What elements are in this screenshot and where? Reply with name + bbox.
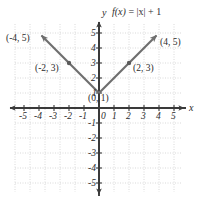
- y-tick-label: 2: [91, 74, 96, 84]
- x-tick-label: -2: [64, 112, 72, 122]
- x-tick-label: 2: [126, 112, 131, 122]
- x-tick-label-zero: 0: [101, 112, 106, 122]
- y-tick-label: -2: [88, 134, 96, 144]
- function-label-body: |x| + 1: [137, 6, 162, 17]
- x-tick-label: 4: [156, 112, 161, 122]
- graph-figure: f(x) = |x| + 1 x y -5 -4 -3 -2 -1 0 1 2 …: [0, 0, 205, 204]
- data-point-dot: [67, 61, 71, 65]
- data-point-dot: [127, 61, 131, 65]
- x-tick-label: -5: [19, 112, 27, 122]
- point-label-2-3: (2, 3): [133, 64, 154, 74]
- x-tick-label: 1: [112, 112, 117, 122]
- y-tick-label: -3: [88, 149, 96, 159]
- x-tick-label: 3: [141, 112, 146, 122]
- y-tick-label: -5: [88, 179, 96, 189]
- point-label-4-5: (4, 5): [160, 38, 181, 48]
- y-tick-label: -4: [88, 164, 96, 174]
- function-label: f(x) = |x| + 1: [112, 7, 161, 17]
- y-axis-name: y: [102, 8, 106, 18]
- point-label-0-1: (0, 1): [88, 94, 109, 104]
- y-tick-label: 5: [91, 29, 96, 39]
- x-tick-label: -1: [79, 112, 87, 122]
- x-tick-label: 5: [171, 112, 176, 122]
- point-label-neg2-3: (-2, 3): [35, 64, 59, 74]
- function-label-equals: =: [126, 6, 137, 17]
- x-axis-name: x: [189, 103, 193, 113]
- x-tick-label: -4: [34, 112, 42, 122]
- y-tick-label: 3: [91, 59, 96, 69]
- point-label-neg4-5: (-4, 5): [6, 34, 30, 44]
- x-tick-label: -3: [49, 112, 57, 122]
- y-tick-label: 4: [91, 44, 96, 54]
- y-tick-label: -1: [88, 119, 96, 129]
- function-label-arg: (x): [115, 6, 126, 17]
